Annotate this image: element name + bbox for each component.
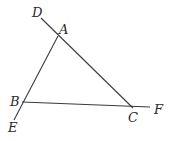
label-d: D	[31, 5, 43, 20]
label-c: C	[128, 110, 138, 125]
label-b: B	[9, 94, 20, 109]
line-d-c	[41, 18, 133, 108]
line-b-f	[22, 102, 150, 107]
label-e: E	[7, 120, 18, 135]
label-a: A	[58, 22, 68, 37]
line-a-e	[14, 36, 58, 120]
label-f: F	[153, 102, 164, 117]
triangle-diagram: D A B E C F	[0, 0, 173, 141]
